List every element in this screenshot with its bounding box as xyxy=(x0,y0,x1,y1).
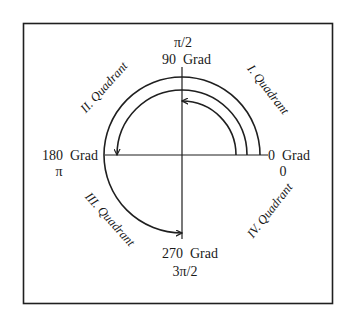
quadrant-label-1: I. Quadrant xyxy=(244,61,292,117)
quadrant-label-4: IV. Quadrant xyxy=(244,180,296,241)
label-right-radians: 0 xyxy=(280,164,287,179)
label-top-degrees: 90 Grad xyxy=(162,52,211,67)
label-top-radians: π/2 xyxy=(174,35,192,50)
quadrant-label-2: II. Quadrant xyxy=(77,59,131,116)
label-left-radians: π xyxy=(55,164,62,179)
quadrant-label-3: III. Quadrant xyxy=(82,189,138,250)
label-bottom-degrees: 270 Grad xyxy=(162,246,218,261)
label-right-degrees: 0 Grad xyxy=(268,148,310,163)
label-left-degrees: 180 Grad xyxy=(42,148,98,163)
angle-diagram: π/2 90 Grad 180 Grad π 0 Grad 0 270 Grad… xyxy=(0,0,349,317)
label-bottom-radians: 3π/2 xyxy=(173,264,198,279)
